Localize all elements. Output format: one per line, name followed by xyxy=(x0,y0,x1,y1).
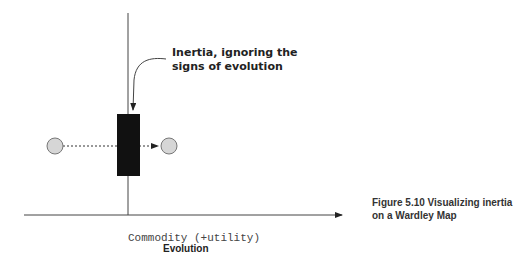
inertia-annotation: Inertia, ignoring the signs of evolution xyxy=(172,46,312,74)
component-start-icon xyxy=(47,138,63,154)
x-axis-label: Evolution xyxy=(163,243,209,254)
inertia-block xyxy=(117,114,140,176)
component-end-icon xyxy=(161,138,177,154)
annotation-pointer xyxy=(133,58,166,110)
figure-caption: Figure 5.10 Visualizing inertia on a War… xyxy=(372,196,522,222)
